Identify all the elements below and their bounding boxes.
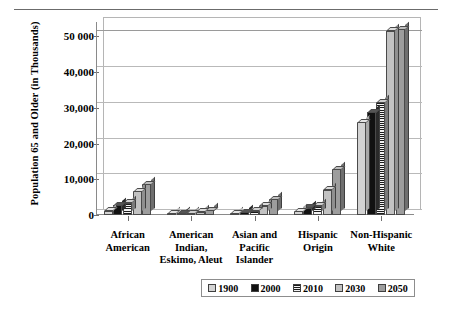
- bar-1900-african-american: [104, 211, 113, 215]
- bar-side-face: [376, 105, 380, 211]
- x-axis-labels: AfricanAmericanAmericanIndian,Eskimo, Al…: [96, 220, 418, 272]
- y-axis-ticks-group: 010,00020,00030,00040,00050 000: [28, 22, 94, 215]
- chart-figure: Population 65 and Older (in Thousands) 0…: [0, 0, 449, 312]
- legend-label-1900: 1900: [218, 283, 238, 294]
- bar-front-face: [250, 211, 259, 215]
- bars-layer: [97, 22, 414, 215]
- bar-group: [160, 22, 223, 215]
- top-divider-rule: [14, 9, 438, 10]
- legend-label-2050: 2050: [388, 283, 408, 294]
- bar-side-face: [278, 192, 282, 211]
- legend-label-2000: 2000: [261, 283, 281, 294]
- legend-item-2050[interactable]: 2050: [378, 283, 408, 294]
- bar-side-face: [385, 95, 389, 211]
- x-axis-tick-mark: [128, 216, 129, 221]
- bar-1900-non-hispanic-white: [357, 122, 366, 215]
- bar-group: [97, 22, 160, 215]
- y-axis-tick-label: 0: [34, 209, 94, 221]
- legend-swatch-2000: [251, 284, 259, 292]
- legend-swatch-2030: [335, 284, 343, 292]
- legend-item-2010[interactable]: 2010: [293, 283, 323, 294]
- bar-front-face: [104, 211, 113, 215]
- bar-side-face: [395, 24, 399, 211]
- legend-swatch-2050: [378, 284, 386, 292]
- bar-1900-american-indian-eskimo-aleut: [167, 214, 176, 215]
- y-axis-tick-label: 30,000: [34, 102, 94, 114]
- x-axis-tick-mark: [255, 216, 256, 221]
- bar-side-face: [341, 162, 345, 211]
- bar-2050-american-indian-eskimo-aleut: [205, 210, 214, 215]
- bar-2010-american-indian-eskimo-aleut: [186, 214, 195, 215]
- y-axis-tick-mark: [94, 215, 99, 216]
- legend-label-2030: 2030: [345, 283, 365, 294]
- bar-side-face: [366, 115, 370, 211]
- bar-1900-hispanic-origin: [294, 211, 303, 215]
- bar-2010-asian-and-pacific-islander: [250, 211, 259, 215]
- legend-label-2010: 2010: [303, 283, 323, 294]
- bar-1900-asian-and-pacific-islander: [230, 214, 239, 215]
- x-axis-label-4: Non-HispanicWhite: [342, 229, 421, 254]
- legend-item-2030[interactable]: 2030: [335, 283, 365, 294]
- bar-2000-asian-and-pacific-islander: [240, 212, 249, 215]
- bar-2000-american-indian-eskimo-aleut: [177, 214, 186, 215]
- legend-item-2000[interactable]: 2000: [251, 283, 281, 294]
- bar-group: [351, 22, 414, 215]
- legend-item-1900[interactable]: 1900: [208, 283, 238, 294]
- y-axis-tick-label: 20,000: [34, 138, 94, 150]
- x-axis-tick-mark: [318, 216, 319, 221]
- y-axis-tick-label: 50 000: [34, 30, 94, 42]
- bar-group: [287, 22, 350, 215]
- bar-side-face: [405, 22, 409, 211]
- y-axis-tick-label: 40,000: [34, 66, 94, 78]
- bar-front-face: [196, 212, 205, 215]
- chart-legend: 19002000201020302050: [201, 279, 415, 297]
- bar-group: [224, 22, 287, 215]
- y-axis-tick-label: 10,000: [34, 173, 94, 185]
- x-axis-tick-mark: [381, 216, 382, 221]
- legend-swatch-2010: [293, 284, 301, 292]
- legend-swatch-1900: [208, 284, 216, 292]
- x-axis-tick-mark: [191, 216, 192, 221]
- bar-front-face: [357, 122, 366, 215]
- bar-2030-american-indian-eskimo-aleut: [196, 212, 205, 215]
